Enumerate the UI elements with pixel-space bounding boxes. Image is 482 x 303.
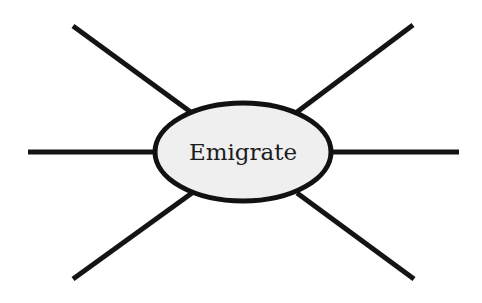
spoke-bottom-right <box>297 193 414 279</box>
spoke-top-right <box>297 25 413 112</box>
spoke-top-left <box>73 26 192 113</box>
spoke-bottom-left <box>73 193 192 279</box>
center-node-label: Emigrate <box>189 139 297 165</box>
spider-diagram: Emigrate <box>0 0 482 303</box>
